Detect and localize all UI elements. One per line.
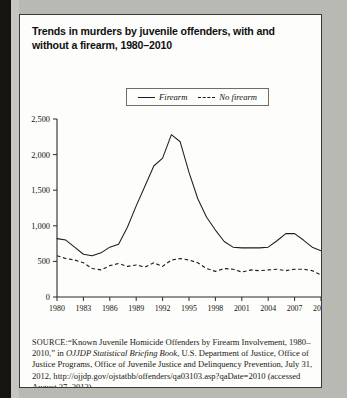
page-gutter-bar <box>0 0 11 398</box>
x-tick-label: 1989 <box>128 304 144 313</box>
x-tick-label: 1986 <box>102 304 118 313</box>
y-tick-label: 0 <box>46 293 50 302</box>
legend-line-dashed-icon <box>198 94 215 101</box>
legend-entry-no-firearm: No firearm <box>198 92 257 102</box>
x-tick-label: 1998 <box>208 304 224 313</box>
figure-card: Trends in murders by juvenile offenders,… <box>19 14 322 388</box>
y-tick-label: 1,500 <box>31 186 50 195</box>
y-tick-label: 2,000 <box>31 151 50 160</box>
x-tick-label: 2004 <box>260 304 276 313</box>
x-tick-label: 2001 <box>234 304 250 313</box>
x-tick-label: 2010 <box>313 304 322 313</box>
source-kicker: SOURCE: <box>32 338 68 347</box>
x-axis-ticks <box>57 297 321 301</box>
legend-entry-firearm: Firearm <box>138 92 187 102</box>
x-axis-labels: 1980198319861989199219951998200120042007… <box>49 304 322 313</box>
legend-label-firearm: Firearm <box>159 92 187 102</box>
page-margin <box>11 0 19 398</box>
series-line-no-firearm <box>57 256 321 275</box>
y-tick-label: 2,500 <box>31 115 50 124</box>
x-tick-label: 1980 <box>49 304 65 313</box>
y-axis-ticks <box>53 119 57 297</box>
y-axis-labels: 05001,0001,5002,0002,500 <box>31 115 50 302</box>
x-tick-label: 1992 <box>155 304 171 313</box>
legend-line-solid-icon <box>138 94 155 101</box>
figure-title: Trends in murders by juvenile offenders,… <box>20 15 321 52</box>
x-tick-label: 1983 <box>76 304 92 313</box>
y-tick-label: 1,000 <box>31 222 50 231</box>
x-tick-label: 1995 <box>181 304 197 313</box>
x-tick-label: 2007 <box>287 304 303 313</box>
chart-legend: Firearm No firearm <box>126 88 269 106</box>
source-note: SOURCE:“Known Juvenile Homicide Offender… <box>32 337 313 388</box>
chart-svg: 05001,0001,5002,0002,500 198019831986198… <box>20 15 322 388</box>
y-tick-label: 500 <box>37 257 50 266</box>
series-line-firearm <box>57 135 321 256</box>
chart-plot-area: 05001,0001,5002,0002,500 198019831986198… <box>20 15 322 388</box>
source-publication-title: OJJDP Statistical Briefing Book <box>66 348 177 358</box>
legend-label-no-firearm: No firearm <box>219 92 257 102</box>
